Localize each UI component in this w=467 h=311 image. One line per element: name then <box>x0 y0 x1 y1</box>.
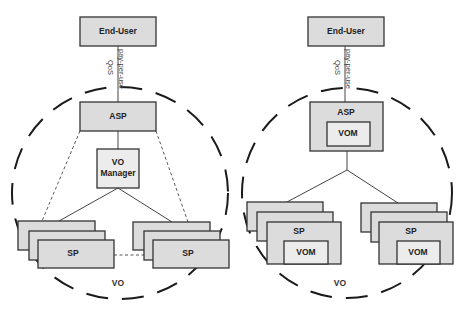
left-asp-sp-dashed-link-2 <box>156 131 188 222</box>
right-link-label-qos: QoS <box>333 60 342 75</box>
left-asp-node: ASP <box>80 102 156 131</box>
right-asp-vom-label: VOM <box>338 128 357 138</box>
left-asp-label: ASP <box>109 111 127 121</box>
left-link-label-qos: QoS <box>106 60 115 75</box>
left-end-user-label: End-User <box>99 26 137 36</box>
left-vo-manager-label-2: Manager <box>101 168 137 178</box>
right-end-user-label: End-User <box>327 26 365 36</box>
left-sp-a-label: SP <box>67 248 79 258</box>
right-sp-a-vom-label: VOM <box>296 247 315 257</box>
left-sp-stack-b: SP <box>133 222 229 268</box>
right-asp-sp-link-2 <box>347 170 398 203</box>
right-sp-stack-b: SP VOM <box>361 203 453 264</box>
right-asp-sp-link-1 <box>287 170 347 202</box>
diagram-canvas: End-User pay-per-use QoS ASP VO Manager <box>0 0 467 311</box>
left-vo-manager-node: VO Manager <box>97 149 139 188</box>
left-link-label-pay-per-use: pay-per-use <box>117 49 126 89</box>
right-diagram: End-User pay-per-use QoS ASP VOM SP VOM <box>242 17 453 298</box>
right-end-user-node: End-User <box>308 17 384 46</box>
right-link-label-pay-per-use: pay-per-use <box>344 49 353 89</box>
right-vo-label: VO <box>334 278 347 288</box>
left-sp-b-label: SP <box>182 248 194 258</box>
left-diagram: End-User pay-per-use QoS ASP VO Manager <box>12 17 229 299</box>
right-asp-node: ASP VOM <box>310 102 383 151</box>
left-vo-label: VO <box>112 278 125 288</box>
right-asp-label: ASP <box>337 107 355 117</box>
left-vomanager-sp-link-2 <box>118 188 172 222</box>
left-vomanager-sp-link-1 <box>59 188 118 221</box>
right-sp-b-vom-label: VOM <box>408 247 427 257</box>
left-vo-manager-label-1: VO <box>112 157 125 167</box>
left-asp-sp-dashed-link-1 <box>42 131 80 221</box>
right-sp-b-label: SP <box>405 226 417 236</box>
left-sp-stack-a: SP <box>18 221 114 268</box>
left-end-user-node: End-User <box>80 17 156 46</box>
right-sp-a-label: SP <box>293 226 305 236</box>
